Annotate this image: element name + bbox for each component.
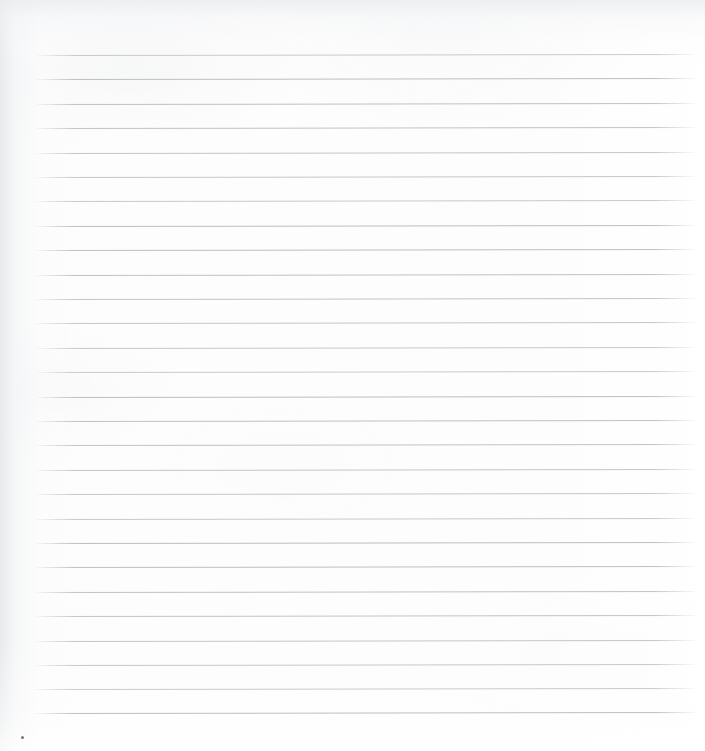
lined-paper-sheet bbox=[0, 0, 705, 751]
paper-writing-area[interactable] bbox=[32, 40, 697, 730]
